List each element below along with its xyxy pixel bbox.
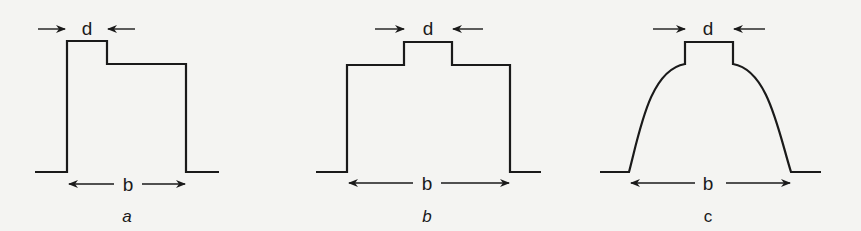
- panel-c: d b c: [600, 18, 821, 226]
- panel-b: d b b: [316, 18, 541, 226]
- panel-label-c: c: [704, 207, 713, 226]
- waveform-c: [600, 42, 821, 172]
- d-label: d: [703, 18, 714, 39]
- panel-label-b: b: [422, 207, 431, 226]
- waveform-a: [35, 41, 219, 172]
- waveform-b: [316, 42, 541, 172]
- pulse-shapes-figure: d b a d b b d b c: [0, 0, 861, 231]
- diagram: d b a d b b d b c: [0, 0, 861, 231]
- d-label: d: [423, 18, 434, 39]
- b-label: b: [123, 174, 134, 195]
- b-label: b: [703, 173, 714, 194]
- b-label: b: [422, 173, 433, 194]
- d-label: d: [82, 18, 93, 39]
- panel-a: d b a: [35, 18, 219, 226]
- panel-label-a: a: [122, 207, 131, 226]
